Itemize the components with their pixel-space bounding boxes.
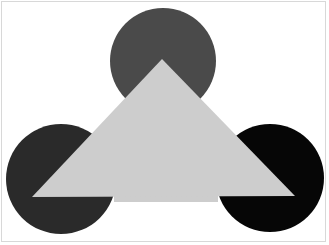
illusion-figure	[0, 0, 329, 245]
